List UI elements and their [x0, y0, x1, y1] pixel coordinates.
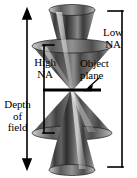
label-depth-of-field-line3: field — [1, 122, 34, 134]
optics-depth-of-field-figure: Low NA Object plane High NA Depth of fie… — [0, 0, 137, 178]
label-object-plane-line1: Object — [80, 58, 130, 70]
label-depth-of-field: Depth of field — [1, 99, 34, 134]
label-high-na-line2: NA — [31, 69, 59, 81]
label-low-na-line1: Low — [97, 27, 129, 39]
label-object-plane-line2: plane — [80, 70, 130, 82]
depth-of-field-double-arrow — [23, 9, 31, 169]
label-low-na-line2: NA — [97, 39, 129, 51]
label-depth-of-field-line1: Depth — [1, 99, 34, 111]
label-high-na-line1: High — [31, 57, 59, 69]
label-object-plane: Object plane — [80, 58, 130, 81]
label-high-na: High NA — [31, 57, 59, 80]
label-low-na: Low NA — [97, 27, 129, 50]
